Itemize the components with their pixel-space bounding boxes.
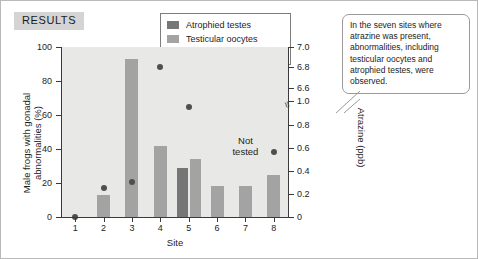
y-axis-right-tick-label: 0.6 <box>297 143 310 153</box>
y-axis-right-title: Atrazine (ppb) <box>356 63 367 213</box>
legend-label-atrophied-testes: Atrophied testes <box>186 20 251 30</box>
y-axis-left-tick-label: 40 <box>42 144 52 154</box>
y-axis-left-tick <box>56 47 61 48</box>
y-axis-left-tick-label: 20 <box>42 178 52 188</box>
x-axis-tick <box>75 218 76 222</box>
y-axis-right-tick-label: 0.8 <box>297 120 310 130</box>
y-axis-left-tick <box>56 81 61 82</box>
y-axis-left-tick-label: 0 <box>47 212 52 222</box>
plot-area: Not tested <box>61 47 288 217</box>
data-point-atrazine-level <box>129 179 135 185</box>
x-axis-tick-label: 7 <box>243 223 248 233</box>
legend-item-atrophied-testes: Atrophied testes <box>167 18 284 32</box>
data-point-atrazine-level <box>271 149 277 155</box>
legend-swatch-testicular-oocytes <box>167 35 179 43</box>
y-axis-right-tick <box>289 125 294 126</box>
y-axis-right-tick-label: 6.8 <box>297 62 310 72</box>
x-axis-tick <box>160 218 161 222</box>
dots-layer <box>61 47 288 217</box>
y-axis-right-tick-label: 0.2 <box>297 189 310 199</box>
y-axis-left-tick <box>56 183 61 184</box>
x-axis-tick <box>274 218 275 222</box>
x-axis-tick-label: 6 <box>215 223 220 233</box>
y-axis-right-tick-label: 0 <box>297 212 302 222</box>
annotation-not-tested-line1: Not <box>223 135 267 146</box>
data-point-atrazine-level <box>101 185 107 191</box>
y-axis-left-tick <box>56 217 61 218</box>
x-axis-tick <box>132 218 133 222</box>
x-axis-tick <box>217 218 218 222</box>
x-axis-tick-label: 3 <box>129 223 134 233</box>
y-axis-right-tick <box>289 217 294 218</box>
y-axis-left-tick-label: 80 <box>42 76 52 86</box>
x-axis-tick-label: 1 <box>73 223 78 233</box>
x-axis-tick-label: 4 <box>158 223 163 233</box>
y-axis-right-tick-label: 0.4 <box>297 166 310 176</box>
y-axis-left-title: Male frogs with gonadal abnormalities (%… <box>21 68 43 218</box>
data-point-atrazine-level <box>157 64 163 70</box>
data-point-atrazine-level <box>186 104 192 110</box>
legend-swatch-atrophied-testes <box>167 21 179 29</box>
y-axis-right-tick <box>289 148 294 149</box>
x-axis-title: Site <box>61 237 289 248</box>
y-axis-right-tick-label: 7.0 <box>297 42 310 52</box>
y-axis-left-tick-label: 60 <box>42 110 52 120</box>
x-axis-tick <box>245 218 246 222</box>
y-axis-left-tick-label: 100 <box>37 42 52 52</box>
x-axis-tick-label: 2 <box>101 223 106 233</box>
legend-item-testicular-oocytes: Testicular oocytes <box>167 32 284 46</box>
x-axis-tick <box>189 218 190 222</box>
callout-text: In the seven sites where atrazine was pr… <box>350 20 462 87</box>
y-axis-left-tick <box>56 115 61 116</box>
x-axis-tick-label: 8 <box>271 223 276 233</box>
y-axis-left-tick <box>56 149 61 150</box>
y-axis-right-tick <box>289 47 294 48</box>
x-axis-tick-label: 5 <box>186 223 191 233</box>
results-badge: RESULTS <box>14 12 84 30</box>
y-axis-right-tick <box>289 67 294 68</box>
y-axis-right-tick-label: 6.6 <box>297 83 310 93</box>
results-figure: RESULTS Atrophied testes Testicular oocy… <box>0 0 478 259</box>
x-axis-line <box>61 217 289 218</box>
y-axis-right-tick-label: 1.0 <box>297 96 310 106</box>
y-axis-left-line <box>61 47 62 218</box>
legend-label-testicular-oocytes: Testicular oocytes <box>186 34 258 44</box>
y-axis-right-tick <box>289 101 294 102</box>
annotation-not-tested-line2: tested <box>223 146 267 157</box>
y-axis-right-line <box>288 47 289 218</box>
y-axis-right-tick <box>289 194 294 195</box>
y-axis-right-tick <box>289 171 294 172</box>
annotation-not-tested: Not tested <box>223 135 267 157</box>
x-axis-tick <box>104 218 105 222</box>
y-axis-right-tick <box>289 88 294 89</box>
